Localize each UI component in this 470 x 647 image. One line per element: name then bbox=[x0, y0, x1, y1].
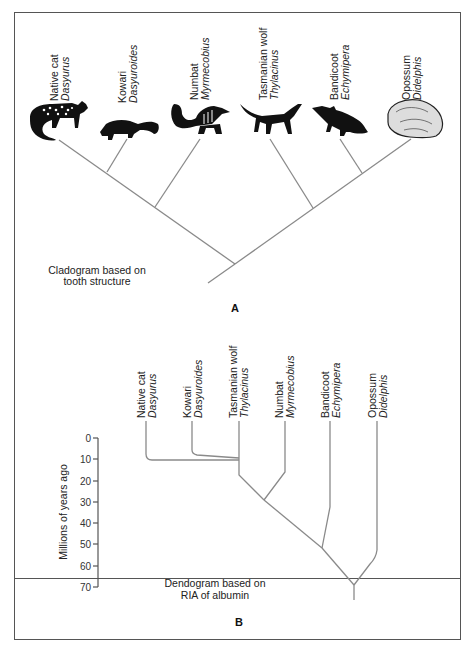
figure-border bbox=[14, 12, 461, 640]
